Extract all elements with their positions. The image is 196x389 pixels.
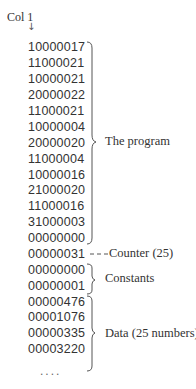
data-brace-icon	[87, 296, 95, 371]
constants-brace-icon	[87, 264, 95, 294]
program-label: The program	[105, 134, 170, 149]
data-label: Data (25 numbers)	[105, 326, 196, 341]
counter-label: Counter (25)	[109, 246, 173, 261]
constants-label: Constants	[105, 271, 154, 286]
program-brace-icon	[87, 42, 96, 244]
